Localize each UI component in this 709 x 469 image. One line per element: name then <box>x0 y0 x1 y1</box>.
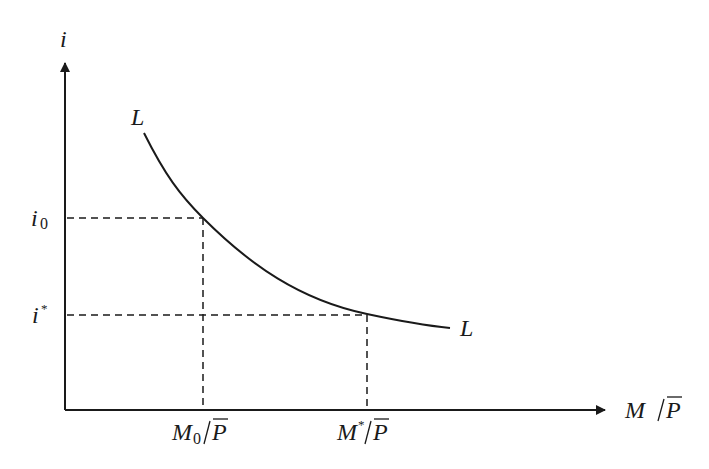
svg-text:0: 0 <box>40 215 48 232</box>
money-demand-diagram: i M P L L i 0 i * M 0 P M * P <box>0 0 709 469</box>
svg-text:M: M <box>336 419 359 445</box>
svg-text:P: P <box>665 397 681 423</box>
curve-label-start: L <box>130 104 144 130</box>
svg-text:M: M <box>171 419 194 445</box>
y-tick-istar: i * <box>32 301 48 328</box>
svg-text:0: 0 <box>193 430 201 447</box>
svg-text:M: M <box>624 397 647 423</box>
svg-text:i: i <box>32 302 39 328</box>
money-demand-curve-L <box>144 133 450 328</box>
svg-text:P: P <box>211 419 227 445</box>
svg-text:i: i <box>31 205 38 231</box>
y-axis-label: i <box>60 26 67 52</box>
x-axis-label: M P <box>624 397 682 423</box>
svg-text:P: P <box>372 419 388 445</box>
curve-label-end: L <box>459 315 473 341</box>
x-tick-mstar: M * P <box>336 417 389 445</box>
dashed-guides <box>67 218 367 408</box>
x-tick-m0: M 0 P <box>171 419 228 447</box>
svg-text:*: * <box>41 301 48 316</box>
y-tick-i0: i 0 <box>31 205 48 232</box>
svg-text:*: * <box>358 417 365 432</box>
